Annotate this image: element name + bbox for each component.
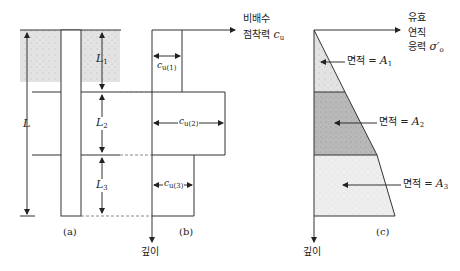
cohesion-axis-label-2: 점착력 cu: [243, 29, 284, 42]
l3-label: L3: [96, 179, 108, 192]
cu2-sub: u(2): [184, 120, 198, 128]
caption-b: (b): [179, 226, 193, 238]
depth-label-b: 깊이: [141, 246, 159, 258]
caption-c: (c): [376, 226, 389, 238]
a2-symbol: A: [412, 115, 420, 128]
pile: [61, 30, 81, 216]
l2-sub: 2: [103, 122, 107, 130]
cu2-label: cu(2): [178, 116, 199, 128]
a3-sub: 3: [444, 183, 448, 191]
a1-sub: 1: [388, 60, 392, 68]
a3-symbol: A: [436, 177, 444, 190]
stress-axis-symbol: σ′: [430, 40, 440, 53]
cohesion-axis-sub: u: [280, 34, 285, 42]
total-length-label: L: [23, 118, 30, 131]
a2-label: 면적 = A2: [379, 116, 424, 129]
a1-symbol: A: [380, 54, 388, 67]
a3-text: 면적 =: [403, 178, 436, 189]
a2-sub: 2: [420, 121, 424, 129]
cohesion-axis-label-1: 비배수: [243, 13, 270, 25]
l1-label: L1: [96, 53, 108, 66]
a2-text: 면적 =: [379, 116, 412, 127]
panel-a: [20, 30, 152, 216]
l1-sub: 1: [103, 58, 107, 66]
l2-label: L2: [96, 117, 108, 130]
stress-axis-word: 응력: [408, 41, 426, 52]
l3-sub: 3: [103, 184, 107, 192]
stress-axis-label-3: 응력 σ′o: [408, 41, 444, 54]
stress-axis-label-1: 유효: [408, 12, 426, 24]
cu3-label: cu(3): [163, 178, 184, 190]
cohesion-axis-word: 점착력: [243, 29, 270, 40]
stress-axis-label-2: 연직: [408, 27, 426, 39]
depth-label-c: 깊이: [303, 246, 321, 258]
cu3-sub: u(3): [169, 182, 183, 190]
a3-label: 면적 = A3: [403, 178, 448, 191]
cu1-label: cu(1): [157, 60, 176, 72]
a1-text: 면적 =: [347, 55, 380, 66]
a1-label: 면적 = A1: [347, 55, 392, 68]
caption-a: (a): [63, 226, 77, 238]
cu1-sub: u(1): [162, 64, 176, 72]
stress-axis-sub: o: [440, 46, 444, 54]
